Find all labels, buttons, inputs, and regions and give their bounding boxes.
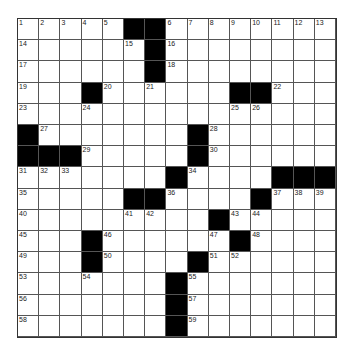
grid-cell[interactable] xyxy=(103,273,124,294)
grid-cell[interactable] xyxy=(39,316,60,337)
grid-cell[interactable] xyxy=(188,83,209,104)
grid-cell[interactable] xyxy=(103,316,124,337)
grid-cell[interactable]: 4 xyxy=(82,19,103,40)
grid-cell[interactable]: 36 xyxy=(166,189,187,210)
grid-cell[interactable] xyxy=(39,189,60,210)
grid-cell[interactable] xyxy=(60,210,81,231)
grid-cell[interactable] xyxy=(209,189,230,210)
grid-cell[interactable] xyxy=(294,231,315,252)
grid-cell[interactable] xyxy=(188,231,209,252)
grid-cell[interactable]: 5 xyxy=(103,19,124,40)
grid-cell[interactable] xyxy=(209,167,230,188)
grid-cell[interactable] xyxy=(103,125,124,146)
grid-cell[interactable]: 8 xyxy=(209,19,230,40)
grid-cell[interactable] xyxy=(294,146,315,167)
grid-cell[interactable] xyxy=(82,40,103,61)
grid-cell[interactable] xyxy=(315,295,336,316)
grid-cell[interactable] xyxy=(294,273,315,294)
grid-cell[interactable] xyxy=(60,83,81,104)
grid-cell[interactable] xyxy=(294,104,315,125)
grid-cell[interactable] xyxy=(103,189,124,210)
grid-cell[interactable] xyxy=(315,273,336,294)
grid-cell[interactable] xyxy=(294,61,315,82)
grid-cell[interactable]: 32 xyxy=(39,167,60,188)
grid-cell[interactable] xyxy=(82,167,103,188)
grid-cell[interactable]: 55 xyxy=(188,273,209,294)
grid-cell[interactable]: 29 xyxy=(82,146,103,167)
grid-cell[interactable] xyxy=(82,61,103,82)
grid-cell[interactable] xyxy=(272,295,293,316)
grid-cell[interactable]: 33 xyxy=(60,167,81,188)
grid-cell[interactable]: 24 xyxy=(82,104,103,125)
grid-cell[interactable]: 49 xyxy=(18,252,39,273)
grid-cell[interactable]: 26 xyxy=(251,104,272,125)
grid-cell[interactable] xyxy=(82,125,103,146)
grid-cell[interactable] xyxy=(315,61,336,82)
grid-cell[interactable] xyxy=(145,146,166,167)
grid-cell[interactable] xyxy=(166,231,187,252)
grid-cell[interactable] xyxy=(251,61,272,82)
grid-cell[interactable] xyxy=(230,61,251,82)
grid-cell[interactable]: 39 xyxy=(315,189,336,210)
grid-cell[interactable] xyxy=(315,210,336,231)
grid-cell[interactable]: 9 xyxy=(230,19,251,40)
grid-cell[interactable]: 18 xyxy=(166,61,187,82)
grid-cell[interactable] xyxy=(60,61,81,82)
grid-cell[interactable] xyxy=(294,125,315,146)
grid-cell[interactable] xyxy=(294,210,315,231)
grid-cell[interactable] xyxy=(103,61,124,82)
grid-cell[interactable] xyxy=(294,316,315,337)
grid-cell[interactable] xyxy=(124,252,145,273)
grid-cell[interactable] xyxy=(209,295,230,316)
grid-cell[interactable] xyxy=(315,316,336,337)
grid-cell[interactable] xyxy=(103,40,124,61)
grid-cell[interactable] xyxy=(251,167,272,188)
grid-cell[interactable] xyxy=(82,189,103,210)
grid-cell[interactable] xyxy=(188,61,209,82)
grid-cell[interactable] xyxy=(272,61,293,82)
grid-cell[interactable]: 23 xyxy=(18,104,39,125)
grid-cell[interactable] xyxy=(166,83,187,104)
grid-cell[interactable] xyxy=(39,295,60,316)
grid-cell[interactable]: 6 xyxy=(166,19,187,40)
grid-cell[interactable] xyxy=(209,273,230,294)
grid-cell[interactable] xyxy=(209,40,230,61)
grid-cell[interactable] xyxy=(103,146,124,167)
grid-cell[interactable] xyxy=(60,273,81,294)
grid-cell[interactable]: 35 xyxy=(18,189,39,210)
grid-cell[interactable]: 7 xyxy=(188,19,209,40)
grid-cell[interactable] xyxy=(230,125,251,146)
grid-cell[interactable]: 30 xyxy=(209,146,230,167)
grid-cell[interactable]: 37 xyxy=(272,189,293,210)
grid-cell[interactable] xyxy=(145,125,166,146)
grid-cell[interactable] xyxy=(124,83,145,104)
grid-cell[interactable]: 22 xyxy=(272,83,293,104)
grid-cell[interactable] xyxy=(60,252,81,273)
grid-cell[interactable] xyxy=(60,125,81,146)
grid-cell[interactable]: 44 xyxy=(251,210,272,231)
grid-cell[interactable] xyxy=(166,210,187,231)
grid-cell[interactable] xyxy=(166,104,187,125)
grid-cell[interactable] xyxy=(82,295,103,316)
grid-cell[interactable] xyxy=(230,167,251,188)
grid-cell[interactable]: 13 xyxy=(315,19,336,40)
grid-cell[interactable] xyxy=(272,210,293,231)
grid-cell[interactable] xyxy=(188,40,209,61)
grid-cell[interactable]: 10 xyxy=(251,19,272,40)
grid-cell[interactable] xyxy=(294,40,315,61)
grid-cell[interactable]: 57 xyxy=(188,295,209,316)
grid-cell[interactable] xyxy=(145,104,166,125)
grid-cell[interactable]: 40 xyxy=(18,210,39,231)
grid-cell[interactable] xyxy=(230,40,251,61)
grid-cell[interactable] xyxy=(209,83,230,104)
grid-cell[interactable] xyxy=(251,125,272,146)
grid-cell[interactable] xyxy=(315,146,336,167)
grid-cell[interactable]: 51 xyxy=(209,252,230,273)
grid-cell[interactable]: 53 xyxy=(18,273,39,294)
grid-cell[interactable] xyxy=(39,83,60,104)
grid-cell[interactable] xyxy=(145,231,166,252)
grid-cell[interactable] xyxy=(124,104,145,125)
grid-cell[interactable]: 46 xyxy=(103,231,124,252)
grid-cell[interactable] xyxy=(82,210,103,231)
grid-cell[interactable] xyxy=(251,146,272,167)
